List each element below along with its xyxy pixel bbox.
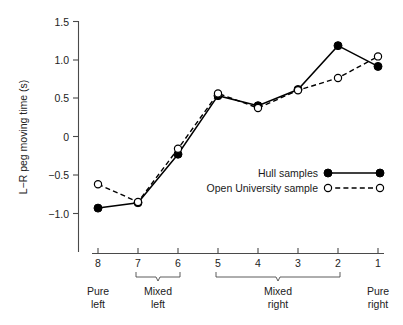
x-tick-label-1: 1 <box>375 257 381 269</box>
bracket-mixed-left <box>136 272 180 281</box>
data-point-open-university-sample-8 <box>94 181 101 188</box>
x-group-labels: Pure left Mixed left Mixed right Pure ri… <box>87 285 389 310</box>
y-axis: 1.5 1.0 0.5 0 −0.5 −1.0 L−R peg moving t… <box>17 16 79 253</box>
chart-legend: Hull samples Open University sample <box>207 167 384 194</box>
group-label-pure-left-line1: Pure <box>87 285 109 297</box>
x-tick-label-4: 4 <box>255 257 261 269</box>
x-tick-label-5: 5 <box>215 257 221 269</box>
y-tick-label-1.5: 1.5 <box>54 16 69 28</box>
x-tick-label-2: 2 <box>335 257 341 269</box>
group-label-pure-left-line2: left <box>91 298 105 310</box>
data-point-open-university-sample-3 <box>294 87 301 94</box>
data-point-hull-samples-1 <box>374 62 382 70</box>
data-point-hull-samples-8 <box>94 204 102 212</box>
x-axis: 8 7 6 5 4 3 2 1 <box>92 248 384 269</box>
x-tick-label-8: 8 <box>95 257 101 269</box>
data-point-open-university-sample-4 <box>254 104 261 111</box>
legend-marker-hull-right <box>376 169 384 177</box>
bracket-mixed-right <box>216 272 340 281</box>
y-tick-label-0.5: 0.5 <box>54 92 69 104</box>
data-point-open-university-sample-6 <box>174 145 181 152</box>
x-tick-label-7: 7 <box>135 257 141 269</box>
group-label-mixed-right-line2: right <box>268 298 289 310</box>
group-label-pure-right-line2: right <box>368 298 389 310</box>
legend-marker-ou-left <box>324 184 331 191</box>
legend-marker-hull-left <box>324 169 332 177</box>
legend-label-open-university-sample: Open University sample <box>207 182 319 194</box>
data-point-open-university-sample-1 <box>374 53 381 60</box>
group-label-mixed-right-line1: Mixed <box>264 285 292 297</box>
y-tick-label--0.5: −0.5 <box>48 169 69 181</box>
data-point-open-university-sample-5 <box>214 90 221 97</box>
x-tick-label-6: 6 <box>175 257 181 269</box>
group-label-pure-right-line1: Pure <box>367 285 389 297</box>
y-tick-label-1.0: 1.0 <box>54 54 69 66</box>
group-label-mixed-left-line2: left <box>151 298 165 310</box>
data-point-open-university-sample-7 <box>134 198 141 205</box>
x-tick-label-3: 3 <box>295 257 301 269</box>
y-axis-title: L−R peg moving time (s) <box>17 80 29 195</box>
x-group-brackets <box>136 272 340 281</box>
y-tick-label--1.0: −1.0 <box>48 208 69 220</box>
data-point-hull-samples-2 <box>334 42 342 50</box>
data-point-open-university-sample-2 <box>334 74 341 81</box>
legend-marker-ou-right <box>376 184 383 191</box>
y-tick-label-0: 0 <box>63 131 69 143</box>
chart-figure: 1.5 1.0 0.5 0 −0.5 −1.0 L−R peg moving t… <box>0 0 403 325</box>
line-chart-canvas: 1.5 1.0 0.5 0 −0.5 −1.0 L−R peg moving t… <box>0 0 403 325</box>
legend-label-hull-samples: Hull samples <box>258 167 318 179</box>
group-label-mixed-left-line1: Mixed <box>144 285 172 297</box>
